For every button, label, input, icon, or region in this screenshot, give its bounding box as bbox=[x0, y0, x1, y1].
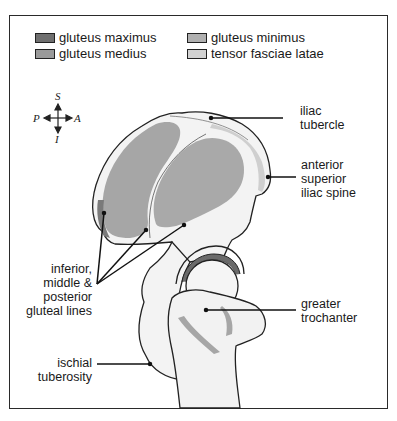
compass-anterior: A bbox=[74, 112, 81, 124]
label-iliac-tubercle: iliactubercle bbox=[300, 104, 344, 132]
label-anterior-superior-iliac-spine: anteriorsuperioriliac spine bbox=[301, 158, 356, 200]
compass-superior: S bbox=[55, 90, 61, 102]
label-ischial-tuberosity: ischialtuberosity bbox=[22, 356, 92, 384]
label-gluteal-lines: inferior,middle &posteriorgluteal lines bbox=[18, 262, 92, 318]
orientation-compass bbox=[44, 104, 72, 133]
label-greater-trochanter: greatertrochanter bbox=[301, 297, 357, 325]
compass-inferior: I bbox=[55, 133, 59, 145]
femur bbox=[168, 290, 265, 408]
compass-posterior: P bbox=[33, 112, 40, 124]
